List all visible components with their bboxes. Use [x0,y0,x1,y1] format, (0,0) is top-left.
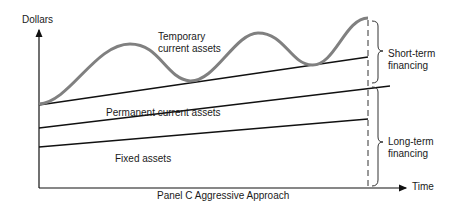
long-term-brace [372,87,383,186]
long-term-financing-label: Long-term [388,136,434,148]
short-term-brace [372,21,383,83]
panel-title: Panel C Aggressive Approach [157,190,289,202]
temporary-label: Temporary [158,31,205,43]
temporary-label-2: current assets [158,43,221,55]
y-axis-label: Dollars [22,14,53,26]
x-axis-label: Time [412,181,434,193]
long-term-financing-label-2: financing [388,148,428,160]
financing-diagram [0,0,462,202]
fixed-assets-line [39,119,368,147]
short-term-financing-label: Short-term [388,48,435,60]
short-term-financing-label-2: financing [388,60,428,72]
fixed-assets-label: Fixed assets [115,153,171,165]
permanent-current-assets-label: Permanent current assets [106,107,221,119]
